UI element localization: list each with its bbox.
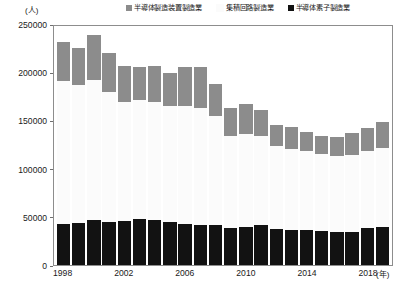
bar-segment-equipment xyxy=(57,42,70,81)
bar-column[interactable] xyxy=(57,26,70,265)
bar-column[interactable] xyxy=(194,26,207,265)
bar-segment-device xyxy=(300,230,313,265)
x-axis-tick-label: 2010 xyxy=(236,268,255,278)
y-axis-tick: 0 xyxy=(42,261,53,271)
bar-segment-integrated-circuit xyxy=(209,116,222,226)
bar-column[interactable] xyxy=(315,26,328,265)
bar-column[interactable] xyxy=(270,26,283,265)
bar-segment-equipment xyxy=(315,136,328,154)
bar-segment-integrated-circuit xyxy=(239,134,252,227)
bar-segment-integrated-circuit xyxy=(194,108,207,225)
x-axis-tick-label: 2006 xyxy=(175,268,194,278)
legend-label-device: 半導体素子製造業 xyxy=(296,3,350,13)
y-axis-tick: 200000 xyxy=(18,68,53,78)
x-axis-tick-label: 2002 xyxy=(114,268,133,278)
bar-segment-device xyxy=(239,227,252,265)
bar-segment-device xyxy=(224,228,237,265)
bar-segment-integrated-circuit xyxy=(315,154,328,231)
y-axis-tick: 100000 xyxy=(18,165,53,175)
bar-segment-device xyxy=(118,221,131,265)
bar-segment-equipment xyxy=(224,108,237,136)
bar-segment-equipment xyxy=(345,133,358,155)
bar-column[interactable] xyxy=(376,26,389,265)
bar-segment-equipment xyxy=(209,84,222,116)
bar-column[interactable] xyxy=(300,26,313,265)
x-axis-unit-label: (年) xyxy=(376,268,389,279)
bar-column[interactable] xyxy=(118,26,131,265)
y-axis-tick: 50000 xyxy=(23,213,53,223)
bar-segment-device xyxy=(133,219,146,265)
bar-segment-equipment xyxy=(300,132,313,151)
bar-segment-integrated-circuit xyxy=(330,156,343,232)
bar-column[interactable] xyxy=(102,26,115,265)
legend-swatch-equipment-icon xyxy=(126,5,132,11)
bar-segment-equipment xyxy=(254,110,267,136)
bar-column[interactable] xyxy=(163,26,176,265)
bar-segment-integrated-circuit xyxy=(376,148,389,227)
x-axis: 199820022006201020142018 xyxy=(53,268,393,284)
bar-segment-device xyxy=(345,232,358,265)
bar-segment-device xyxy=(72,223,85,265)
bar-segment-integrated-circuit xyxy=(133,100,146,219)
chart-legend: 半導体製造装置製造業 集積回路製造業 半導体素子製造業 xyxy=(126,3,350,13)
bar-segment-device xyxy=(209,225,222,265)
bar-column[interactable] xyxy=(87,26,100,265)
bar-segment-equipment xyxy=(239,104,252,135)
bar-column[interactable] xyxy=(361,26,374,265)
bar-column[interactable] xyxy=(133,26,146,265)
bar-segment-device xyxy=(194,225,207,265)
bar-segment-device xyxy=(361,228,374,265)
bar-column[interactable] xyxy=(178,26,191,265)
bar-segment-integrated-circuit xyxy=(285,149,298,230)
semiconductor-employment-chart: (人) 半導体製造装置製造業 集積回路製造業 半導体素子製造業 25000020… xyxy=(0,0,401,288)
plot-area xyxy=(53,25,393,266)
bar-segment-equipment xyxy=(178,67,191,106)
y-axis-tick-label: 150000 xyxy=(18,116,50,126)
bar-column[interactable] xyxy=(285,26,298,265)
bar-segment-device xyxy=(87,220,100,265)
bar-segment-equipment xyxy=(72,48,85,86)
bar-segment-integrated-circuit xyxy=(224,136,237,229)
bar-column[interactable] xyxy=(254,26,267,265)
y-axis-tick-label: 0 xyxy=(42,261,50,271)
bar-column[interactable] xyxy=(72,26,85,265)
bar-segment-equipment xyxy=(285,127,298,149)
bar-column[interactable] xyxy=(345,26,358,265)
bar-segment-equipment xyxy=(163,73,176,107)
bar-segment-integrated-circuit xyxy=(87,80,100,220)
x-axis-tick-label: 2018 xyxy=(359,268,378,278)
bar-column[interactable] xyxy=(330,26,343,265)
bar-segment-equipment xyxy=(270,125,283,146)
y-axis-tick-label: 250000 xyxy=(18,20,50,30)
bar-column[interactable] xyxy=(224,26,237,265)
bar-column[interactable] xyxy=(209,26,222,265)
legend-label-equipment: 半導体製造装置製造業 xyxy=(134,3,202,13)
bar-segment-equipment xyxy=(102,53,115,92)
bar-segment-integrated-circuit xyxy=(254,136,267,226)
bar-segment-equipment xyxy=(194,67,207,108)
bar-segment-device xyxy=(270,229,283,265)
bar-segment-equipment xyxy=(87,35,100,80)
bar-column[interactable] xyxy=(148,26,161,265)
bar-segment-device xyxy=(315,231,328,265)
bar-segment-device xyxy=(285,230,298,265)
bar-column[interactable] xyxy=(239,26,252,265)
bar-segment-equipment xyxy=(148,66,161,102)
bar-series-container xyxy=(54,26,392,265)
y-axis-unit-label: (人) xyxy=(25,4,38,15)
bar-segment-equipment xyxy=(361,128,374,151)
bar-segment-equipment xyxy=(133,67,146,100)
x-axis-tick-label: 2014 xyxy=(297,268,316,278)
bar-segment-integrated-circuit xyxy=(148,102,161,220)
y-axis-tick-label: 100000 xyxy=(18,165,50,175)
y-axis-tick: 250000 xyxy=(18,20,53,30)
bar-segment-integrated-circuit xyxy=(361,151,374,228)
bar-segment-integrated-circuit xyxy=(102,92,115,222)
x-axis-tick-label: 1998 xyxy=(53,268,72,278)
y-axis: 250000200000150000100000500000 xyxy=(0,25,53,266)
bar-segment-integrated-circuit xyxy=(345,155,358,232)
bar-segment-integrated-circuit xyxy=(300,151,313,230)
bar-segment-integrated-circuit xyxy=(270,146,283,229)
legend-item-device: 半導体素子製造業 xyxy=(288,3,350,13)
bar-segment-device xyxy=(163,222,176,265)
